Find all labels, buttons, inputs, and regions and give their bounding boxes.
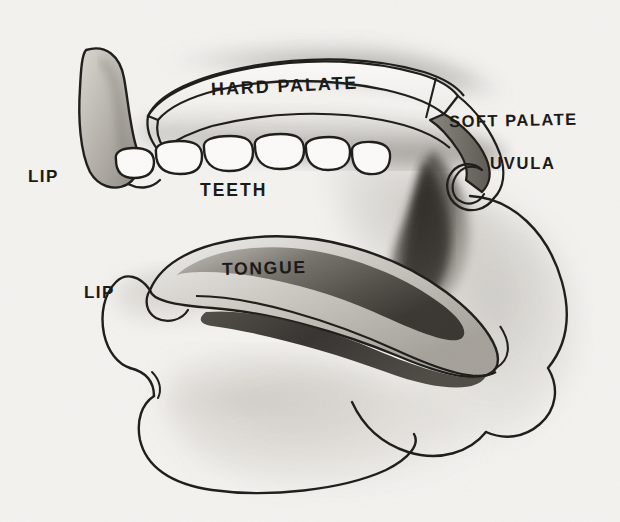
label-teeth: TEETH [200,182,267,200]
label-uvula: UVULA [490,155,556,172]
anatomical-diagram-mouth: HARD PALATE SOFT PALATE UVULA LIP LIP TE… [0,0,620,522]
label-tongue: TONGUE [222,259,307,279]
label-lip-upper: LIP [28,168,59,185]
label-soft-palate: SOFT PALATE [449,111,578,130]
label-lip-lower: LIP [84,284,115,301]
